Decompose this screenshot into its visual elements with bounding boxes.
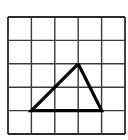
figure-container: Triangle on square grid [0,0,128,140]
grid-triangle-diagram [0,0,128,140]
figure-background [0,0,128,140]
